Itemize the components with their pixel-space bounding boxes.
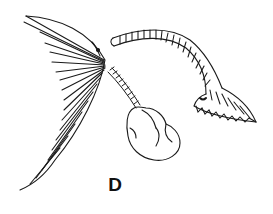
feathery-fan: [20, 16, 105, 190]
bulb: [127, 107, 180, 160]
panel-label: D: [106, 174, 124, 196]
drawing: [0, 0, 273, 214]
ringed-stalk: [108, 67, 140, 108]
illustration: D: [0, 0, 273, 214]
